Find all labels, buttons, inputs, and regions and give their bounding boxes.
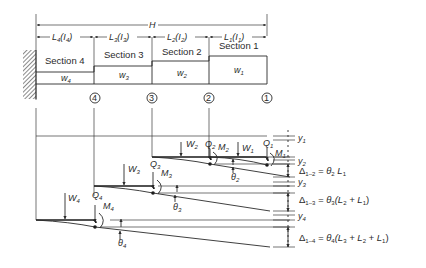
node-4-label: 4 — [92, 93, 97, 103]
load-W2-label: W2 — [186, 139, 199, 150]
deflection-y1-label: y1 — [297, 133, 306, 144]
label-L2-I2: L2(I2) — [167, 32, 187, 43]
equation-delta-1-2: Δ1–2 = θ2 L1 — [299, 165, 347, 177]
weight-w3: w3 — [119, 70, 130, 81]
angle-theta3-label: θ3 — [173, 202, 182, 213]
equation-delta-1-4: Δ1–4 = θ4(L3 + L2 + L1) — [299, 232, 389, 244]
weight-w1: w1 — [234, 65, 244, 76]
section-3-label: Section 3 — [104, 49, 144, 60]
node-2-label: 2 — [206, 93, 211, 103]
label-L4-I4: L4(I4) — [52, 32, 72, 43]
moment-M4-label: M4 — [103, 201, 115, 212]
equation-delta-1-3: Δ1–3 = θ3(L2 + L1) — [299, 194, 369, 206]
segment-4: W4 Q4 M4 θ4 — [36, 190, 290, 249]
node-1-label: 1 — [264, 93, 269, 103]
deflection-y3-label: y3 — [297, 177, 307, 188]
fixed-support-wall — [23, 50, 36, 99]
label-L3-I3: L3(I3) — [109, 32, 129, 43]
shear-Q2-label: Q2 — [205, 139, 216, 150]
node-markers: 4 3 2 1 — [90, 93, 272, 103]
moment-M4-arc — [99, 213, 103, 228]
moment-M3-arc — [157, 180, 161, 194]
moment-M2-label: M2 — [218, 142, 230, 153]
label-H: H — [149, 20, 156, 30]
section-4-label: Section 4 — [45, 55, 85, 66]
weight-w4: w4 — [61, 73, 72, 84]
node-3-label: 3 — [149, 93, 154, 103]
moment-M2-arc — [213, 152, 217, 165]
segment-3: W3 Q3 M3 θ3 — [94, 159, 290, 213]
section-2-label: Section 2 — [162, 46, 202, 57]
deflection-y4-label: y4 — [297, 211, 307, 222]
angle-theta4-label: θ4 — [118, 238, 127, 249]
load-W4-label: W4 — [68, 193, 81, 204]
load-W1-label: W1 — [242, 143, 254, 154]
load-W3-label: W3 — [128, 164, 141, 175]
moment-M3-label: M3 — [161, 168, 173, 179]
shear-Q3-label: Q3 — [150, 159, 161, 170]
angle-theta2-label: θ2 — [231, 172, 240, 183]
shear-Q4-label: Q4 — [92, 190, 103, 201]
shear-Q1-label: Q1 — [263, 138, 273, 149]
weight-w2: w2 — [177, 68, 188, 79]
stepped-cantilever-diagram: H L4(I4) L3(I3) L2(I2) L1(I1) Section 4 … — [0, 0, 426, 268]
moment-M1-label: M1 — [275, 148, 286, 159]
section-1-label: Section 1 — [219, 40, 259, 51]
